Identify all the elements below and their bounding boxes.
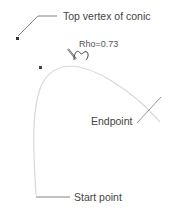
conic-diagram <box>0 0 183 217</box>
top-vertex-point[interactable] <box>16 37 19 40</box>
endpoint-label: Endpoint <box>91 115 132 127</box>
curve-vertex-marker[interactable] <box>39 66 42 69</box>
top-vertex-leader <box>18 16 57 36</box>
top-vertex-label: Top vertex of conic <box>63 10 151 22</box>
start-point-label: Start point <box>74 191 122 203</box>
rho-value-label[interactable]: Rho=0.73 <box>79 38 118 50</box>
pencil-rho-icon[interactable] <box>68 49 88 60</box>
conic-curve <box>34 66 160 195</box>
